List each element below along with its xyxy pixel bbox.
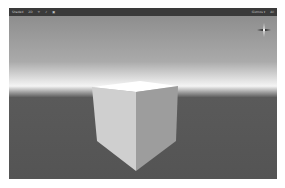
audio-toggle-icon[interactable]: ♪	[44, 9, 48, 15]
cube-right-face	[136, 86, 178, 171]
scene-toolbar: Shaded 2D ☀ ♪ ▣ Gizmos ▾ All	[9, 8, 277, 16]
scene-view-window: Shaded 2D ☀ ♪ ▣ Gizmos ▾ All	[9, 8, 277, 179]
scene-viewport[interactable]	[9, 16, 277, 179]
orientation-gizmo-icon[interactable]	[256, 22, 272, 38]
cube-left-face	[92, 87, 136, 171]
shading-mode-dropdown[interactable]: Shaded	[11, 9, 24, 15]
gizmos-dropdown[interactable]: Gizmos ▾	[251, 9, 267, 15]
2d-toggle[interactable]: 2D	[27, 9, 33, 15]
lighting-toggle-icon[interactable]: ☀	[37, 9, 42, 15]
cube-object[interactable]	[92, 79, 188, 171]
effects-toggle-icon[interactable]: ▣	[51, 9, 56, 15]
search-field[interactable]: All	[269, 9, 275, 15]
